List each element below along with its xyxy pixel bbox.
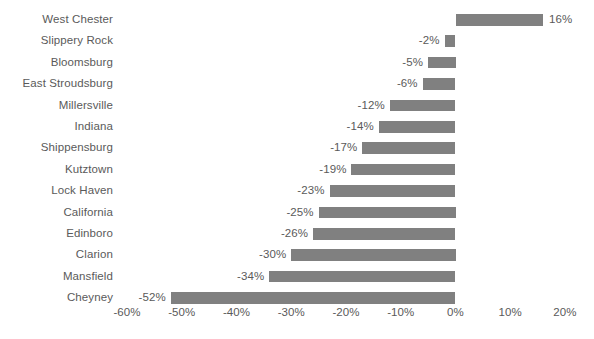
bar [313, 228, 455, 240]
x-tick-label: 10% [499, 306, 522, 318]
data-label: -2% [0, 30, 440, 51]
x-tick-label: -50% [168, 306, 195, 318]
bar [319, 207, 456, 219]
bar [330, 185, 456, 197]
bar [351, 164, 455, 176]
bar [456, 14, 544, 26]
bar-row: Slippery Rock-2% [0, 30, 594, 51]
bar-chart: West Chester16%Slippery Rock-2%Bloomsbur… [0, 0, 594, 339]
bar [362, 142, 455, 154]
data-label: -25% [0, 202, 314, 223]
bar-row: Bloomsburg-5% [0, 52, 594, 73]
category-label: West Chester [0, 9, 113, 30]
data-label: -26% [0, 223, 308, 244]
x-tick-label: -10% [387, 306, 414, 318]
bar [379, 121, 456, 133]
data-label: -5% [0, 52, 423, 73]
bar-row: Mansfield-34% [0, 266, 594, 287]
data-label: -23% [0, 180, 325, 201]
x-tick-label: -30% [278, 306, 305, 318]
data-label: -17% [0, 137, 357, 158]
bar-row: Clarion-30% [0, 244, 594, 265]
x-tick-label: -60% [113, 306, 140, 318]
bar [269, 271, 455, 283]
bar-row: Indiana-14% [0, 116, 594, 137]
bar-row: Millersville-12% [0, 95, 594, 116]
data-label: -19% [0, 159, 346, 180]
data-label: -34% [0, 266, 264, 287]
x-tick-label: 0% [447, 306, 464, 318]
data-label: -12% [0, 95, 385, 116]
bar-row: Edinboro-26% [0, 223, 594, 244]
data-label: -30% [0, 244, 286, 265]
plot-area: West Chester16%Slippery Rock-2%Bloomsbur… [0, 0, 594, 302]
data-label: -14% [0, 116, 374, 137]
x-axis: -60%-50%-40%-30%-20%-10%0%10%20% [0, 302, 594, 339]
bar [423, 78, 456, 90]
bar-row: West Chester16% [0, 9, 594, 30]
x-tick-label: 20% [553, 306, 576, 318]
data-label: -6% [0, 73, 418, 94]
bar-row: East Stroudsburg-6% [0, 73, 594, 94]
x-tick-label: -40% [223, 306, 250, 318]
x-tick-label: -20% [332, 306, 359, 318]
bar [445, 35, 456, 47]
bar-row: Shippensburg-17% [0, 137, 594, 158]
bar-row: California-25% [0, 202, 594, 223]
bar [390, 100, 456, 112]
bar [291, 249, 455, 261]
bar [428, 57, 455, 69]
bar-row: Lock Haven-23% [0, 180, 594, 201]
data-label: 16% [549, 9, 572, 30]
bar-row: Kutztown-19% [0, 159, 594, 180]
